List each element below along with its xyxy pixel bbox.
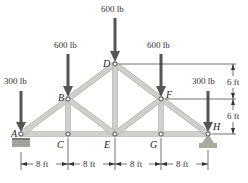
support-a-roller <box>12 138 30 147</box>
load-label-f: 600 lb <box>147 40 170 50</box>
joint-e <box>113 132 117 136</box>
joint-label-c: C <box>57 139 64 150</box>
joint-d <box>113 62 117 66</box>
dim-label-lower: 6 ft <box>227 111 240 121</box>
joint-label-a: A <box>10 128 18 139</box>
joint-g <box>159 132 163 136</box>
joint-c <box>66 132 70 136</box>
joint-b <box>66 97 70 101</box>
load-arrow-d <box>110 18 120 62</box>
joint-label-f: F <box>165 89 173 100</box>
load-label-b: 600 lb <box>54 40 77 50</box>
joint-f <box>159 97 163 101</box>
joint-h <box>206 132 210 136</box>
joint-label-e: E <box>103 139 110 150</box>
load-arrow-f <box>156 54 166 97</box>
joint-label-d: D <box>102 58 111 69</box>
dim-label-ce: 8 ft <box>83 159 96 169</box>
dim-label-gh: 8 ft <box>176 159 189 169</box>
joint-a <box>19 132 23 136</box>
dim-label-ac: 8 ft <box>36 159 49 169</box>
load-arrow-b <box>63 54 73 97</box>
dim-label-eg: 8 ft <box>130 159 143 169</box>
load-label-a: 300 lb <box>4 76 27 86</box>
load-label-h: 300 lb <box>192 76 215 86</box>
joint-label-b: B <box>58 92 64 103</box>
dim-label-upper: 6 ft <box>227 77 240 87</box>
joint-label-g: G <box>150 139 157 150</box>
truss-diagram: A B C D E F G H 300 lb 600 lb 600 lb 600… <box>0 0 248 183</box>
joint-label-h: H <box>212 121 221 132</box>
load-arrow-h <box>203 91 213 132</box>
load-arrow-a <box>16 91 26 132</box>
load-label-d: 600 lb <box>101 4 124 14</box>
